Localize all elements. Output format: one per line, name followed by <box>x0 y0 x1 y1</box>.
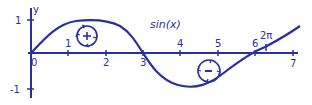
curve-label: sin(x) <box>150 18 181 31</box>
y-tick-label-1: 1 <box>15 15 21 26</box>
x-tick-label-7: 7 <box>290 58 296 69</box>
y-tick-label-neg1: -1 <box>10 84 20 95</box>
plus-circle-icon <box>76 25 97 47</box>
x-tick-label-5: 5 <box>215 38 221 49</box>
chart-canvas: y 1 -1 0 1 2 3 4 5 6 7 2π sin(x) <box>0 0 312 105</box>
minus-circle-icon <box>198 60 220 82</box>
x-tick-label-0: 0 <box>31 57 37 68</box>
sine-chart: y 1 -1 0 1 2 3 4 5 6 7 2π sin(x) <box>0 0 312 105</box>
x-tick-label-6: 6 <box>252 38 258 49</box>
y-axis-label: y <box>33 4 39 15</box>
x-tick-label-4: 4 <box>177 38 183 49</box>
x-tick-label-3: 3 <box>140 57 146 68</box>
x-tick-label-1: 1 <box>65 38 71 49</box>
x-tick-label-2: 2 <box>103 57 109 68</box>
two-pi-label: 2π <box>260 30 272 41</box>
